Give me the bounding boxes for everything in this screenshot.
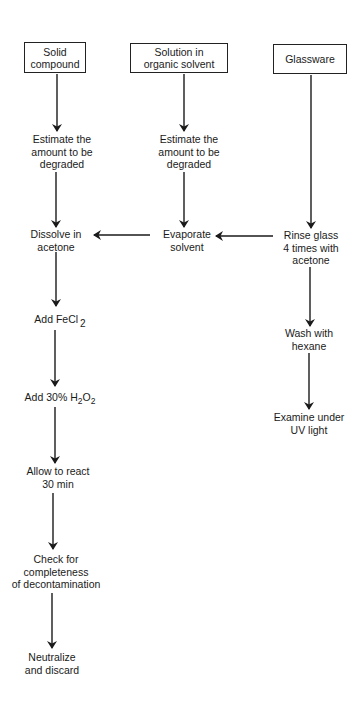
step-allow-to-react: Allow to react 30 min <box>26 465 89 490</box>
box-label-line: Solution in <box>144 46 215 58</box>
step-line: amount to be <box>31 146 92 159</box>
step-line: solvent <box>163 241 211 254</box>
step-evaporate-solvent: Evaporate solvent <box>163 228 211 253</box>
step-line: Allow to react <box>26 465 89 478</box>
step-line: and discard <box>25 664 79 677</box>
step-check-completeness: Check for completeness of decontaminatio… <box>12 553 101 591</box>
box-label-line: compound <box>30 58 79 70</box>
step-line: Estimate the <box>158 133 219 146</box>
step-text: Add 30% H <box>25 391 78 403</box>
source-box-glassware: Glassware <box>273 44 347 74</box>
step-line: Estimate the <box>31 133 92 146</box>
step-line: UV light <box>274 424 345 437</box>
step-examine-under-uv: Examine under UV light <box>274 411 345 436</box>
step-add-h2o2: Add 30% H2O2 <box>25 391 96 404</box>
step-rinse-glass: Rinse glass 4 times with acetone <box>283 229 338 267</box>
subscript: 2 <box>80 318 86 329</box>
source-box-solution: Solution in organic solvent <box>130 43 228 73</box>
step-estimate-middle: Estimate the amount to be degraded <box>158 133 219 171</box>
step-line: acetone <box>283 254 338 267</box>
source-box-solid-compound: Solid compound <box>24 42 86 73</box>
step-wash-with-hexane: Wash with hexane <box>285 327 333 352</box>
step-line: 30 min <box>26 478 89 491</box>
step-add-fecl2: Add FeCl2 <box>34 313 85 331</box>
step-line: hexane <box>285 340 333 353</box>
step-line: Examine under <box>274 411 345 424</box>
box-label-line: Glassware <box>285 53 335 65</box>
step-line: acetone <box>31 241 82 254</box>
step-line: Check for <box>12 553 101 566</box>
step-line: Evaporate <box>163 228 211 241</box>
step-line: Neutralize <box>25 651 79 664</box>
flow-arrows <box>0 0 364 710</box>
step-line: Rinse glass <box>283 229 338 242</box>
step-line: degraded <box>158 158 219 171</box>
step-line: Wash with <box>285 327 333 340</box>
step-line: degraded <box>31 158 92 171</box>
box-label-line: organic solvent <box>144 58 215 70</box>
step-line: of decontamination <box>12 578 101 591</box>
step-line: amount to be <box>158 146 219 159</box>
step-text: Add FeCl <box>34 313 78 325</box>
step-line: completeness <box>12 566 101 579</box>
step-text: O <box>82 391 90 403</box>
step-neutralize-and-discard: Neutralize and discard <box>25 651 79 676</box>
subscript: 2 <box>91 396 96 406</box>
step-dissolve-in-acetone: Dissolve in acetone <box>31 228 82 253</box>
step-estimate-left: Estimate the amount to be degraded <box>31 133 92 171</box>
step-line: 4 times with <box>283 242 338 255</box>
box-label-line: Solid <box>30 46 79 58</box>
step-line: Dissolve in <box>31 228 82 241</box>
